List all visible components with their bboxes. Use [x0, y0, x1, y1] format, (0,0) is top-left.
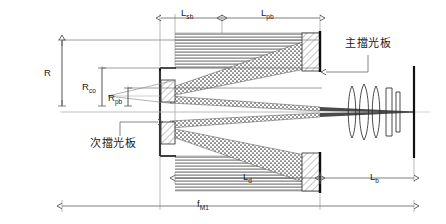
- label-R: R: [44, 68, 51, 80]
- diagram-canvas: [0, 0, 446, 224]
- label-L-sb: Lsb: [181, 8, 193, 20]
- optical-diagram: R Rco Rpb Lsb Lpb Ld Lb fM1 主擋光板 次擋光板: [0, 0, 446, 224]
- label-L-pb: Lpb: [261, 8, 274, 20]
- dimension-f-m1: [62, 200, 414, 212]
- label-f-M1: fM1: [197, 199, 209, 211]
- label-main-baffle: 主擋光板: [345, 38, 391, 49]
- label-L-d: Ld: [243, 172, 252, 184]
- label-R-pb: Rpb: [108, 93, 122, 105]
- label-R-co: Rco: [82, 82, 96, 94]
- label-secondary-baffle: 次擋光板: [90, 138, 136, 149]
- label-L-b: Lb: [370, 172, 379, 184]
